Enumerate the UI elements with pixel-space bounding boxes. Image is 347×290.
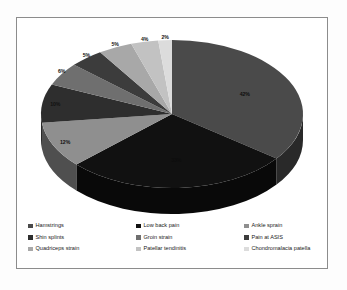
legend-item-label: Patellar tendinitis [144,243,187,255]
legend-item-label: Quadriceps strain [36,243,80,255]
legend-swatch-icon [28,247,33,252]
legend-item[interactable]: Hamstrings [28,220,136,232]
pie-slice-percent-label: 33% [171,157,181,163]
chart-legend: HamstringsLow back painAnkle sprainShin … [17,216,327,268]
legend-swatch-icon [244,235,249,240]
legend-item[interactable]: Quadriceps strain [28,243,136,255]
legend-item[interactable]: Patellar tendinitis [136,243,244,255]
legend-item-label: Shin splints [36,232,65,244]
legend-swatch-icon [28,224,33,229]
pie-chart-svg [17,18,327,216]
legend-item[interactable]: Ankle sprain [244,220,338,232]
chart-page: 42%33%12%10%6%5%5%4%2% HamstringsLow bac… [0,0,347,290]
legend-item-label: Chondromalacia patella [252,243,311,255]
legend-swatch-icon [28,235,33,240]
pie-slice-percent-label: 42% [240,91,250,97]
legend-item[interactable]: Chondromalacia patella [244,243,338,255]
legend-item-label: Pain at ASIS [252,232,283,244]
legend-swatch-icon [244,224,249,229]
legend-swatch-icon [136,235,141,240]
pie-slice-percent-label: 12% [60,139,70,145]
legend-item[interactable]: Groin strain [136,232,244,244]
legend-grid: HamstringsLow back painAnkle sprainShin … [17,220,327,255]
legend-item-label: Groin strain [144,232,173,244]
legend-swatch-icon [136,247,141,252]
pie-slice-percent-label: 10% [50,101,60,107]
pie-slice-percent-label: 4% [141,36,148,42]
legend-swatch-icon [136,224,141,229]
chart-frame: 42%33%12%10%6%5%5%4%2% HamstringsLow bac… [16,17,328,269]
legend-item[interactable]: Pain at ASIS [244,232,338,244]
legend-swatch-icon [244,247,249,252]
pie-slice-percent-label: 2% [161,34,168,40]
pie-chart-plot-area: 42%33%12%10%6%5%5%4%2% [17,18,327,216]
pie-slice-percent-label: 5% [112,41,119,47]
legend-item-label: Low back pain [144,220,180,232]
legend-item-label: Ankle sprain [252,220,283,232]
legend-item-label: Hamstrings [36,220,64,232]
pie-slice-percent-label: 6% [58,68,65,74]
pie-slice-percent-label: 5% [83,52,90,58]
legend-item[interactable]: Low back pain [136,220,244,232]
legend-item[interactable]: Shin splints [28,232,136,244]
